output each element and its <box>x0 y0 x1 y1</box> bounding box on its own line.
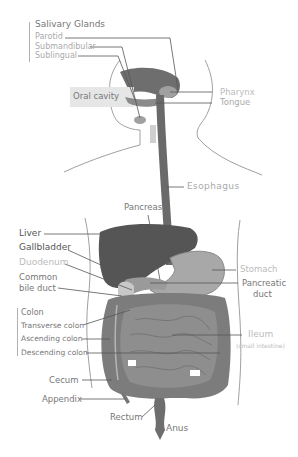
appendix-label: Appendix <box>42 395 82 404</box>
pancreatic-duct-label-line2: duct <box>253 290 272 299</box>
submandibular-label: Submandibular <box>35 43 96 51</box>
salivary-bracket <box>29 22 30 62</box>
colon-bracket <box>17 308 18 356</box>
duodenum-label: Duodenum <box>19 258 69 267</box>
descending-colon-label: Descending colon <box>21 349 88 357</box>
pancreas-label: Pancreas <box>124 203 162 212</box>
esophagus-label: Esophagus <box>187 182 240 191</box>
gap <box>128 360 136 366</box>
anus-label: Anus <box>166 424 188 433</box>
rectum-shape <box>154 398 165 440</box>
cecum-label: Cecum <box>49 376 79 385</box>
colon-heading: Colon <box>21 309 44 317</box>
parotid-label: Parotid <box>35 33 63 41</box>
liver-label: Liver <box>19 229 41 238</box>
pancreatic-duct-label-line1: Pancreatic <box>242 279 286 288</box>
oral-cavity-label: Oral cavity <box>73 92 119 101</box>
pharynx-label: Pharynx <box>220 88 255 97</box>
salivary-glands-heading: Salivary Glands <box>35 20 105 29</box>
common-bile-duct-label-line1: Common <box>19 273 57 282</box>
common-bile-duct-label-line2: bile duct <box>19 284 56 293</box>
gallbladder-label: Gallbladder <box>19 243 71 252</box>
ileum-label: Ileum <box>248 330 273 339</box>
transverse-colon-label: Transverse colon <box>21 322 84 330</box>
ascending-colon-label: Ascending colon <box>21 335 82 343</box>
gap <box>190 370 200 376</box>
anatomy-illustration <box>0 0 298 457</box>
rectum-label: Rectum <box>110 413 142 422</box>
tongue-label: Tongue <box>220 98 250 107</box>
ileum-sublabel: (small intestine) <box>236 343 285 349</box>
digestive-system-diagram: Salivary Glands Parotid Submandibular Su… <box>0 0 298 457</box>
stomach-label: Stomach <box>240 265 277 274</box>
trachea-shape <box>150 125 156 143</box>
sublingual-label: Sublingual <box>35 52 77 60</box>
small-intestine-shape <box>120 304 217 388</box>
